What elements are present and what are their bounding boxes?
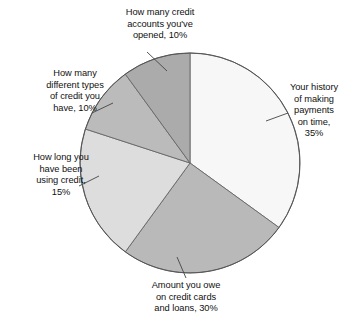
pie-label-new-credit-accounts: How many credit accounts you've opened, …: [96, 7, 224, 42]
pie-label-amount-owed: Amount you owe on credit cards and loans…: [122, 280, 250, 315]
credit-score-factors-pie-chart: How many credit accounts you've opened, …: [0, 0, 359, 327]
pie-label-credit-mix: How many different types of credit you h…: [16, 68, 134, 114]
pie-label-payment-history: Your history of making payments on time,…: [272, 82, 356, 140]
pie-label-length-of-credit-history: How long you have been using credit, 15%: [4, 152, 118, 198]
